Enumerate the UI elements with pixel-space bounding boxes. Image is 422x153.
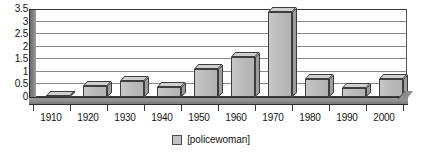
x-tick-label: 2000 [364, 112, 404, 124]
bar-side-face [255, 52, 260, 97]
x-tick [144, 105, 145, 111]
x-tick [218, 105, 219, 111]
bars-layer [35, 9, 407, 98]
x-tick-label: 1940 [142, 112, 182, 124]
x-tick [255, 105, 256, 111]
bar-front-face [342, 88, 366, 97]
bar-front-face [305, 79, 329, 97]
legend-series-label: [policewoman] [187, 134, 250, 146]
y-tick-label: 1 [0, 67, 28, 77]
chart-legend: [policewoman] [0, 131, 422, 149]
x-tick [403, 105, 404, 111]
plot-area [29, 9, 414, 105]
x-axis: 1910 1920 1930 1940 1950 1960 1970 1980 … [29, 112, 419, 126]
bar-front-face [194, 69, 218, 97]
x-tick-label: 1990 [327, 112, 367, 124]
x-tick [292, 105, 293, 111]
x-tick [366, 105, 367, 111]
x-tick-label: 1950 [179, 112, 219, 124]
x-tick [181, 105, 182, 111]
x-tick [329, 105, 330, 111]
x-tick-label: 1920 [68, 112, 108, 124]
bar-front-face [231, 57, 255, 97]
bar-front-face [83, 86, 107, 97]
plot-floor [29, 97, 408, 105]
x-tick-label: 1930 [105, 112, 145, 124]
x-tick-label: 1970 [253, 112, 293, 124]
bar-front-face [268, 12, 292, 97]
bar-front-face [120, 81, 144, 97]
y-tick-label: 0 [0, 92, 28, 102]
y-tick-label: 3 [0, 17, 28, 27]
bar-side-face [218, 64, 223, 97]
bar-side-face [292, 7, 297, 97]
x-tick [107, 105, 108, 111]
y-tick-label: 1.5 [0, 54, 28, 64]
x-tick [33, 105, 34, 111]
bar-chart-figure: 3.5 3 2.5 2 1.5 1 0.5 0 [0, 0, 422, 153]
legend-color-swatch-icon [172, 135, 182, 145]
bar-front-face [379, 79, 403, 97]
y-tick-label: 2.5 [0, 29, 28, 39]
x-tick [70, 105, 71, 111]
x-axis-ticks [29, 105, 414, 112]
x-tick-label: 1980 [290, 112, 330, 124]
x-tick-label: 1910 [31, 112, 71, 124]
bar-front-face [157, 87, 181, 97]
y-tick-label: 3.5 [0, 4, 28, 14]
y-axis: 3.5 3 2.5 2 1.5 1 0.5 0 [0, 0, 28, 115]
x-tick-label: 1960 [216, 112, 256, 124]
y-tick-label: 2 [0, 42, 28, 52]
y-tick-label: 0.5 [0, 79, 28, 89]
